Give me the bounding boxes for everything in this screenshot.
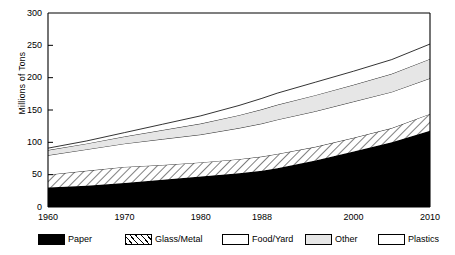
legend-swatch-plastics-icon [378, 234, 405, 245]
legend-swatch-paper-icon [38, 234, 65, 245]
legend-swatch-food-yard-icon [222, 234, 249, 245]
legend-label: Food/Yard [252, 234, 293, 244]
stacked-area-bands [48, 44, 430, 207]
legend-item-food-yard[interactable]: Food/Yard [222, 234, 293, 245]
plot-area [0, 0, 455, 255]
chart-legend: PaperGlass/MetalFood/YardOtherPlastics [0, 228, 455, 250]
legend-label: Glass/Metal [155, 234, 203, 244]
legend-swatch-glass-metal-icon [125, 234, 152, 245]
legend-label: Paper [68, 234, 92, 244]
legend-item-glass-metal[interactable]: Glass/Metal [125, 234, 203, 245]
legend-item-paper[interactable]: Paper [38, 234, 92, 245]
legend-label: Other [335, 234, 358, 244]
legend-item-plastics[interactable]: Plastics [378, 234, 439, 245]
legend-item-other[interactable]: Other [305, 234, 358, 245]
legend-swatch-other-icon [305, 234, 332, 245]
chart-figure: Millions of Tons 050100150200250300 1960… [0, 0, 455, 255]
legend-label: Plastics [408, 234, 439, 244]
